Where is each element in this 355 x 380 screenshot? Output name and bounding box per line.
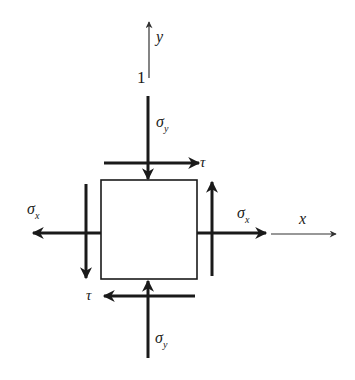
- sigma-y-bottom: σy: [148, 281, 168, 358]
- point-label: 1: [137, 68, 146, 87]
- y-axis: y 1: [137, 22, 164, 87]
- tau-bottom: τ: [86, 287, 195, 303]
- stress-element-diagram: y 1 x σy τ σx σx τ σy: [0, 0, 355, 380]
- x-axis: x: [271, 210, 336, 234]
- sigma-y-top: σy: [148, 96, 169, 179]
- stress-element-square: [101, 180, 197, 279]
- y-axis-label: y: [154, 28, 164, 46]
- tau-bottom-label: τ: [86, 287, 92, 303]
- tau-top-label: τ: [200, 154, 206, 170]
- sigma-x-right-label: σx: [237, 204, 250, 225]
- x-axis-label: x: [298, 210, 306, 227]
- sigma-x-left: σx: [27, 200, 101, 233]
- sigma-y-top-label: σy: [156, 113, 169, 134]
- sigma-y-bottom-label: σy: [155, 329, 168, 350]
- tau-top: τ: [104, 154, 206, 170]
- sigma-x-left-label: σx: [27, 200, 40, 221]
- sigma-x-right: σx: [197, 204, 266, 233]
